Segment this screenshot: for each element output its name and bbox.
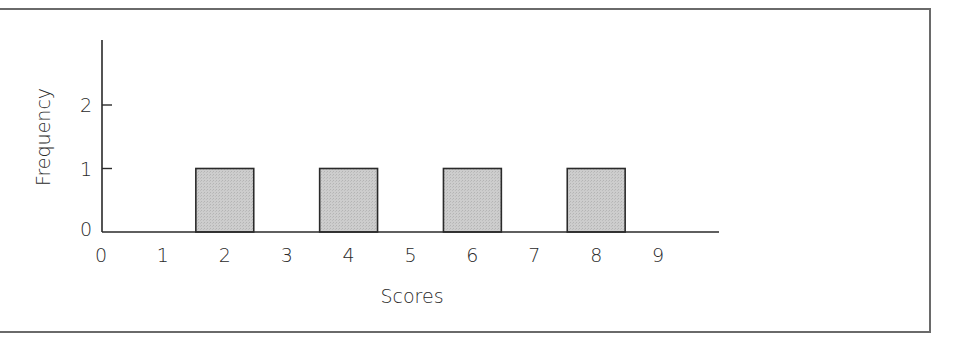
y-ticks-group: 012 [80, 94, 112, 240]
bar-score-2 [196, 169, 254, 233]
bar-score-4 [320, 169, 378, 233]
y-tick-label: 1 [80, 158, 92, 180]
x-tick-label: 4 [343, 244, 355, 266]
x-tick-label: 7 [528, 244, 540, 266]
y-tick-label: 2 [80, 94, 92, 116]
x-tick-label: 8 [590, 244, 602, 266]
x-tick-label: 9 [652, 244, 664, 266]
histogram-chart: 012 0123456789 Scores Frequency [0, 0, 955, 351]
bars-group [196, 169, 625, 233]
bar-score-6 [443, 169, 501, 233]
x-ticks-group: 0123456789 [95, 244, 664, 266]
bar-score-8 [567, 169, 625, 233]
x-tick-label: 1 [157, 244, 169, 266]
x-tick-label: 2 [219, 244, 231, 266]
y-axis-label: Frequency [32, 88, 54, 186]
x-tick-label: 0 [95, 244, 107, 266]
x-axis-label: Scores [380, 285, 443, 307]
x-tick-label: 6 [466, 244, 478, 266]
y-tick-label: 0 [80, 218, 92, 240]
x-tick-label: 3 [281, 244, 293, 266]
x-tick-label: 5 [404, 244, 416, 266]
